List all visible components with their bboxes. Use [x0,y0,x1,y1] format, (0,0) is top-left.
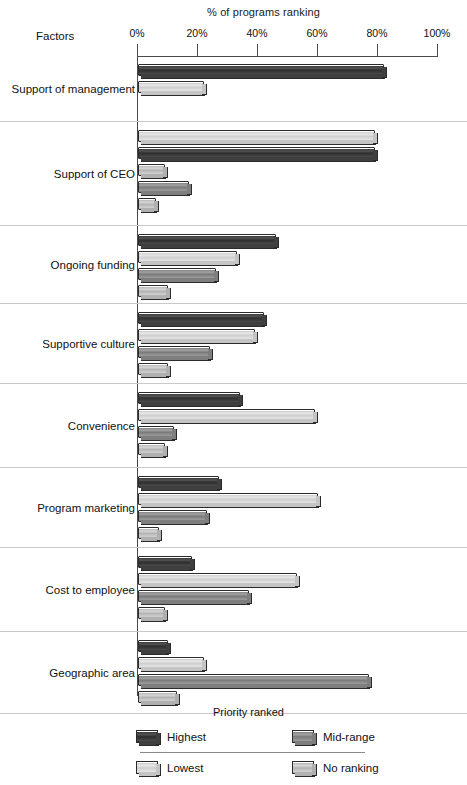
category-label: Program marketing [37,502,135,514]
bar-lowest[interactable] [138,657,204,669]
bar-group: Support of management [0,56,467,122]
y-axis-title: Factors [36,30,74,42]
x-tick-label-80: 80% [366,27,387,39]
bar-row [0,440,467,457]
chart-legend: Priority ranked HighestMid-rangeLowestNo… [0,706,467,785]
category-label: Supportive culture [42,338,135,350]
category-label: Support of management [12,83,135,95]
bar-group: Support of CEO [0,122,467,226]
legend-item-lowest[interactable]: Lowest [136,761,203,774]
legend-title: Priority ranked [0,706,467,718]
category-label: Cost to employee [46,584,136,596]
legend-item-midrange[interactable]: Mid-range [292,730,375,743]
bar-no-ranking[interactable] [138,607,165,619]
bar-lowest[interactable] [138,81,204,93]
bar-highest[interactable] [138,476,219,488]
bar-no-ranking[interactable] [138,691,177,703]
bar-lowest[interactable] [138,329,255,341]
bar-row [0,524,467,541]
bar-mid-range[interactable] [138,674,369,686]
legend-swatch-midrange [292,730,314,743]
category-label: Geographic area [49,667,135,679]
bar-group: Cost to employee [0,548,467,632]
bar-row [0,604,467,621]
bar-lowest[interactable] [138,493,318,505]
legend-label-midrange: Mid-range [323,731,375,743]
bar-group: Convenience [0,384,467,468]
bar-highest[interactable] [138,64,384,76]
bar-row [0,95,467,112]
x-tick-label-100: 100% [424,27,451,39]
bar-no-ranking[interactable] [138,527,159,539]
bar-row [0,195,467,212]
bar-row [0,178,467,195]
bar-row [0,688,467,705]
bar-row [0,282,467,299]
legend-swatch-lowest [136,761,158,774]
bar-highest[interactable] [138,234,276,246]
x-tick-label-40: 40% [246,27,267,39]
bar-row [0,144,467,161]
bar-lowest[interactable] [138,409,315,421]
bar-row [0,231,467,248]
bar-row [0,389,467,406]
bar-row [0,61,467,78]
bar-highest[interactable] [138,147,375,159]
bar-lowest[interactable] [138,130,375,142]
bar-no-ranking[interactable] [138,164,165,176]
bar-mid-range[interactable] [138,426,174,438]
bar-row [0,553,467,570]
legend-item-noranking[interactable]: No ranking [292,761,379,774]
x-tick-label-60: 60% [306,27,327,39]
category-label: Support of CEO [54,168,135,180]
bar-no-ranking[interactable] [138,363,168,375]
bar-mid-range[interactable] [138,346,210,358]
chart-root: % of programs ranking Factors 0%20%40%60… [0,0,467,785]
bar-no-ranking[interactable] [138,285,168,297]
chart-title: % of programs ranking [0,6,467,18]
x-axis: 0%20%40%60%80%100% [137,44,438,45]
category-label: Convenience [68,420,135,432]
bar-highest[interactable] [138,312,264,324]
bar-mid-range[interactable] [138,268,216,280]
bar-highest[interactable] [138,556,192,568]
bar-lowest[interactable] [138,573,297,585]
bar-group: Ongoing funding [0,226,467,304]
bar-row [0,637,467,654]
legend-label-lowest: Lowest [167,762,203,774]
plot-area: Support of managementSupport of CEOOngoi… [0,56,467,700]
legend-swatch-highest [136,730,158,743]
bar-mid-range[interactable] [138,181,189,193]
bar-mid-range[interactable] [138,510,207,522]
bar-no-ranking[interactable] [138,198,156,210]
legend-item-highest[interactable]: Highest [136,730,206,743]
bar-group-bars [0,122,467,212]
legend-label-highest: Highest [167,731,206,743]
bar-group: Geographic area [0,632,467,714]
bar-row [0,127,467,144]
bar-lowest[interactable] [138,251,237,263]
bar-group: Program marketing [0,468,467,548]
legend-label-noranking: No ranking [323,762,379,774]
bar-row [0,309,467,326]
bar-no-ranking[interactable] [138,443,165,455]
bar-row [0,473,467,490]
category-label: Ongoing funding [51,259,135,271]
bar-group: Supportive culture [0,304,467,384]
bar-mid-range[interactable] [138,590,249,602]
x-tick-label-20: 20% [186,27,207,39]
bar-highest[interactable] [138,392,240,404]
x-tick-label-0: 0% [129,27,144,39]
bar-highest[interactable] [138,640,168,652]
legend-swatch-noranking [292,761,314,774]
bar-row [0,360,467,377]
legend-divider [140,752,365,753]
